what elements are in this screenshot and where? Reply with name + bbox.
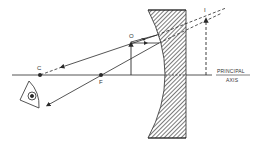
principal-axis-label-line1: PRINCIPAL — [217, 68, 245, 74]
image-label: I — [204, 7, 206, 13]
object-label: O — [129, 33, 134, 39]
center-of-curvature-point — [38, 73, 42, 77]
ray-2-direction-arrow — [144, 41, 148, 45]
ray-2-reflected — [48, 43, 159, 105]
convex-mirror — [148, 10, 186, 138]
ray-1-reflected-to-c — [40, 67, 62, 75]
ray-1-reflected — [62, 35, 157, 67]
focus-point — [99, 73, 103, 77]
focus-label: F — [99, 79, 103, 85]
principal-axis-label-line2: AXIS — [226, 77, 239, 83]
convex-mirror-ray-diagram: PRINCIPAL AXIS O I C F — [0, 0, 257, 148]
center-of-curvature-label: C — [37, 65, 42, 71]
eye-icon — [20, 81, 39, 108]
